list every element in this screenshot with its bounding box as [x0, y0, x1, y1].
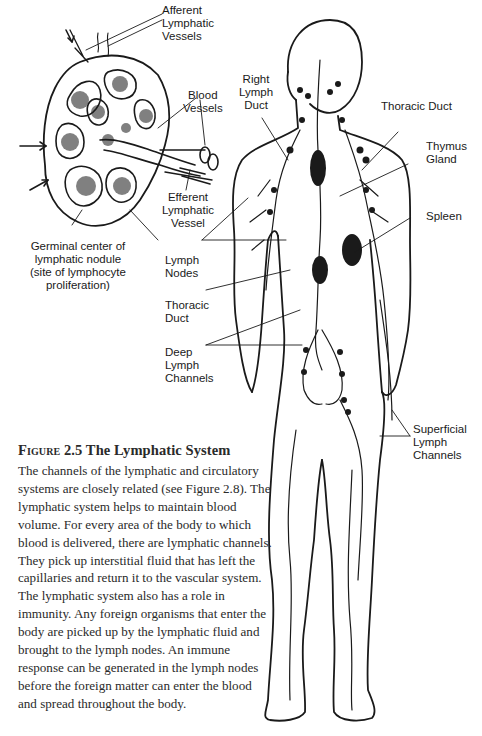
- lymphatic-system-figure: Afferent Lymphatic Vessels Blood Vessels…: [0, 0, 482, 736]
- figure-caption: Figure 2.5 The Lymphatic System The chan…: [18, 442, 273, 713]
- label-germinal-center: Germinal center of lymphatic nodule (sit…: [30, 240, 126, 292]
- label-thoracic-duct-top: Thoracic Duct: [381, 100, 452, 113]
- figure-number: Figure 2.5: [18, 442, 82, 458]
- caption-title: Figure 2.5 The Lymphatic System: [18, 442, 273, 459]
- label-deep-lymph-channels: Deep Lymph Channels: [165, 346, 214, 385]
- label-efferent-lymphatic-vessel: Efferent Lymphatic Vessel: [162, 191, 214, 230]
- heart-shape: [310, 150, 326, 186]
- label-thymus-gland: Thymus Gland: [426, 140, 467, 166]
- label-thoracic-duct-mid: Thoracic Duct: [165, 299, 209, 325]
- label-blood-vessels: Blood Vessels: [183, 89, 223, 115]
- label-lymph-nodes: Lymph Nodes: [165, 254, 199, 280]
- label-superficial-lymph-channels: Superficial Lymph Channels: [413, 423, 467, 462]
- label-afferent-lymphatic-vessels: Afferent Lymphatic Vessels: [162, 4, 214, 43]
- label-spleen: Spleen: [426, 210, 462, 223]
- figure-title: The Lymphatic System: [86, 442, 231, 458]
- label-right-lymph-duct: Right Lymph Duct: [239, 73, 273, 112]
- caption-body: The channels of the lymphatic and circul…: [18, 462, 273, 713]
